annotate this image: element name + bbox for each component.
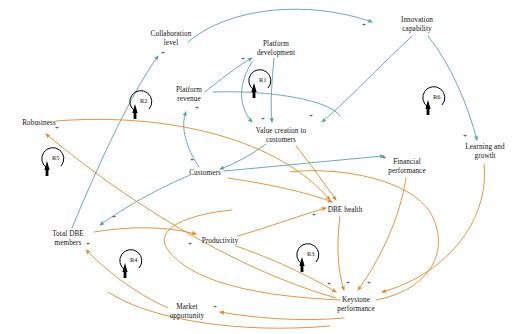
link-sign: + [309,113,313,120]
loop-label-R1: R1 [259,76,266,83]
node-learning-and-growth: Learning and growth [457,143,513,161]
edge-customers-to-dbe-health [228,178,332,202]
link-sign: + [86,241,90,248]
edge-bottom-left-return [108,292,330,328]
edge-dbe-health-to-keystone [338,216,344,290]
link-sign: + [367,280,371,287]
node-platform-revenue: Platform revenue [165,86,213,104]
link-sign: + [346,280,350,287]
node-platform-development: Platform development [248,40,304,58]
link-sign: + [241,56,245,63]
link-sign: + [55,125,59,132]
link-sign: + [261,116,265,123]
link-sign: + [382,155,386,162]
loop-arrow-R2 [132,104,137,119]
link-sign: + [190,157,194,164]
loop-arrow-R4 [122,263,127,278]
edge-financial-to-keystone [358,178,406,290]
link-sign: + [213,304,217,311]
node-productivity: Productivity [196,237,244,246]
node-dbe-health: DBE health [322,206,368,215]
node-value-creation-to-customers: Value creation to customers [245,127,317,145]
loop-arrow-R5 [44,161,49,176]
edge-platform-revenue-to-value-creation [213,92,340,116]
node-collaboration-level: Collaboration level [144,30,198,48]
loop-label-R5: R5 [52,154,59,161]
node-keystone-performance: Keystone performance [329,296,383,314]
link-sign: + [327,281,331,288]
edge-market-opportunity-to-total-members [86,250,168,308]
node-customers: Customers [182,169,228,178]
node-financial-performance: Financial performance [380,158,434,176]
edge-platform-development-to-value-creation [271,58,274,122]
loop-arrow-R3 [299,257,304,272]
edge-total-members-to-collaboration [72,56,158,228]
loop-label-R4: R4 [130,256,137,263]
loop-arrow-R1 [251,83,256,98]
edge-learning-growth-to-keystone [382,164,485,292]
edge-productivity-to-keystone [236,246,336,292]
link-sign: + [188,241,192,248]
edge-collaboration-to-innovation [188,9,372,42]
link-sign: + [362,22,366,29]
loop-label-R3: R3 [307,250,314,257]
edge-value-creation-to-customers [220,144,266,169]
link-sign: + [112,214,116,221]
edge-innovation-to-value-creation [322,36,412,122]
edge-innovation-to-learning-growth [428,36,477,140]
edge-customers-to-financial-performance [224,156,384,171]
link-sign: + [312,212,316,219]
node-innovation-capability: Innovation capability [391,16,443,34]
link-sign: + [161,50,165,57]
edge-keystone-to-market-opportunity [220,312,344,320]
loop-label-R2: R2 [140,97,147,104]
loop-label-R6: R6 [433,93,440,100]
link-sign: + [463,133,467,140]
node-market-opportunity: Market opportunity [160,303,214,321]
edge-value-creation-to-dbe-health [296,146,336,200]
causal-loop-diagram-canvas: Collaboration level Platform revenue Pla… [0,0,514,334]
link-sign: + [195,105,199,112]
loop-arrow-R6 [425,100,430,115]
